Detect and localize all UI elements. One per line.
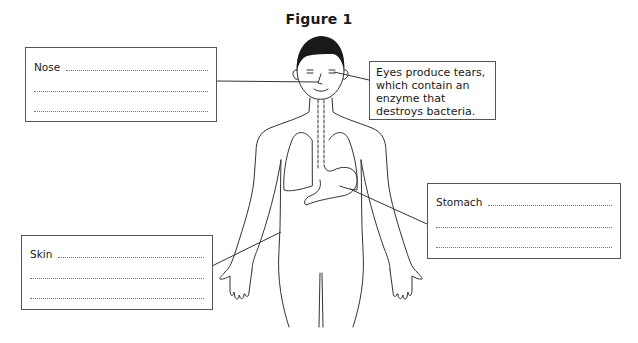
inner-arm-left: [252, 160, 281, 270]
skin-answer-box: Skin: [21, 235, 213, 310]
skin-leader-line: [212, 232, 281, 266]
trachea: [318, 100, 324, 170]
left-eye-icon: [307, 70, 313, 73]
nose-icon: [318, 74, 322, 84]
nose-answer-box: Nose: [25, 47, 217, 122]
skin-answer-line-2[interactable]: [30, 278, 204, 279]
right-lung: [329, 133, 357, 191]
leg-divider: [319, 273, 323, 327]
stomach-answer-line-3[interactable]: [436, 247, 612, 248]
inner-arm-right: [361, 160, 390, 270]
stomach-answer-line-1[interactable]: [488, 205, 612, 206]
body-outline-right: [332, 98, 417, 272]
skin-answer-line-1[interactable]: [58, 257, 204, 258]
mouth-icon: [314, 89, 328, 91]
stomach-answer-box: Stomach: [427, 183, 621, 259]
nose-answer-line-3[interactable]: [34, 111, 208, 112]
hair-icon: [297, 36, 344, 70]
nose-leader-line: [216, 81, 318, 82]
nose-label: Nose: [34, 61, 60, 73]
nose-answer-line-2[interactable]: [34, 91, 208, 92]
torso-right: [353, 160, 363, 327]
eyes-note-box: Eyes produce tears, which contain an enz…: [369, 61, 496, 120]
stomach-label: Stomach: [436, 196, 482, 208]
left-lung: [284, 133, 312, 191]
body-outline-left: [225, 98, 310, 272]
left-hand-icon: [220, 270, 252, 299]
nose-answer-line-1[interactable]: [66, 70, 208, 71]
eyes-note-text: Eyes produce tears, which contain an enz…: [376, 66, 485, 118]
right-eye-icon: [329, 70, 335, 73]
right-hand-icon: [390, 270, 422, 299]
eyes-leader-line: [334, 72, 369, 80]
skin-answer-line-3[interactable]: [30, 298, 204, 299]
skin-label: Skin: [30, 248, 52, 260]
stomach-answer-line-2[interactable]: [436, 227, 612, 228]
